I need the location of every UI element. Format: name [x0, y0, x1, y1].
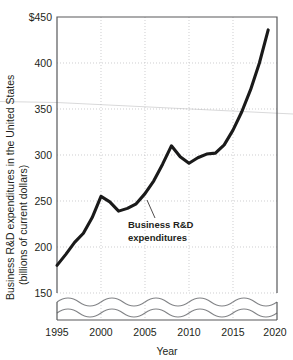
- x-tick-label-2005: 2005: [133, 326, 157, 338]
- y-tick-label-200: 200: [34, 241, 52, 253]
- y-tick-label-250: 250: [34, 195, 52, 207]
- y-tick-label-400: 400: [34, 57, 52, 69]
- data-series-business-rd: [57, 30, 268, 266]
- y-axis-title-line1: Business R&D expenditures in the United …: [4, 75, 16, 300]
- line-chart-svg: $450 400 350 300 250 200 150 Business R&…: [0, 0, 293, 360]
- y-axis-title-line2: (billions of current dollars): [17, 165, 29, 285]
- annotation-leader-line: [147, 200, 155, 218]
- x-tick-label-2015: 2015: [221, 326, 245, 338]
- x-tick-label-1995: 1995: [45, 326, 69, 338]
- axis-break-wave-bottom: [57, 309, 277, 317]
- axis-break-wave-top: [57, 298, 277, 306]
- artifact-line-right: [57, 103, 293, 115]
- y-tick-label-450: $450: [29, 11, 53, 23]
- y-tick-label-300: 300: [34, 149, 52, 161]
- annotation-label-line1: Business R&D: [128, 219, 194, 230]
- chart-figure: $450 400 350 300 250 200 150 Business R&…: [0, 0, 293, 360]
- annotation-label-line2: expenditures: [128, 232, 187, 243]
- x-tick-label-2000: 2000: [89, 326, 113, 338]
- y-tick-label-150: 150: [34, 287, 52, 299]
- x-tick-label-2010: 2010: [177, 326, 201, 338]
- y-tick-label-350: 350: [34, 103, 52, 115]
- x-tick-label-2020: 2020: [263, 326, 287, 338]
- x-axis-title: Year: [156, 345, 178, 357]
